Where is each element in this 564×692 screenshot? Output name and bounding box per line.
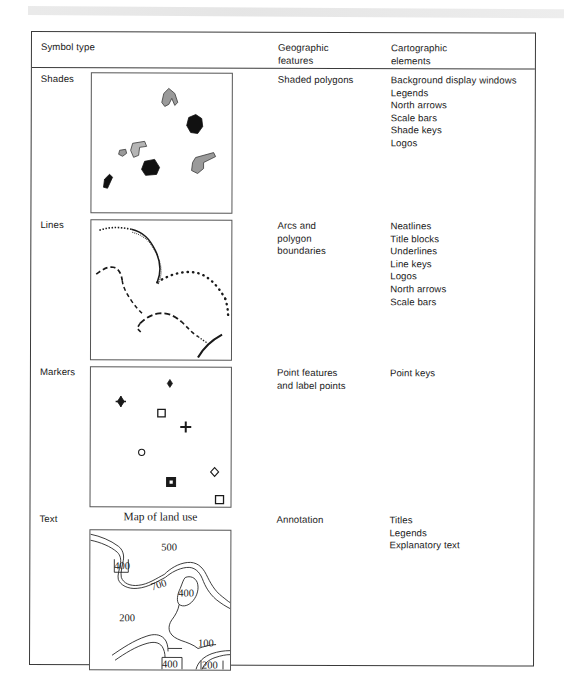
- markers-figure: [90, 366, 232, 507]
- map-title: Map of land use: [89, 510, 231, 522]
- row-geographic-shades: Shaded polygons: [278, 74, 354, 87]
- line-styles-svg: [91, 220, 231, 359]
- header-divider: [32, 67, 535, 70]
- contour-label-200-b: 200: [202, 660, 218, 670]
- row-label-shades: Shades: [41, 73, 74, 86]
- shades-figure: [90, 72, 232, 213]
- row-geographic-text: Annotation: [276, 514, 323, 527]
- header-cartographic-elements: Cartographic elements: [391, 42, 447, 67]
- row-geographic-lines: Arcs and polygon boundaries: [277, 220, 326, 258]
- contour-label-400-c: 400: [162, 658, 178, 669]
- symbol-type-table: Symbol type Geographic features Cartogra…: [29, 31, 536, 667]
- contour-label-200-a: 200: [119, 612, 135, 623]
- contour-map-svg: 500 400 700 400 200 100 400 200: [90, 530, 230, 669]
- row-cartographic-text: Titles Legends Explanatory text: [389, 514, 460, 552]
- contour-label-400-b: 400: [178, 587, 194, 598]
- shades-polygons-svg: [91, 73, 231, 212]
- row-label-lines: Lines: [40, 219, 63, 232]
- row-cartographic-shades: Background display windows Legends North…: [391, 74, 517, 150]
- point-markers-svg: [91, 367, 231, 506]
- row-geographic-markers: Point features and label points: [277, 367, 346, 392]
- text-map-figure: 500 400 700 400 200 100 400 200: [89, 529, 231, 670]
- contour-label-400-a: 400: [114, 560, 130, 571]
- row-cartographic-markers: Point keys: [390, 367, 435, 380]
- row-label-markers: Markers: [40, 366, 75, 379]
- contour-label-500: 500: [161, 541, 177, 552]
- contour-label-700: 700: [149, 577, 167, 592]
- header-geographic-features: Geographic features: [278, 42, 329, 67]
- row-cartographic-lines: Neatlines Title blocks Underlines Line k…: [390, 220, 446, 308]
- header-symbol-type: Symbol type: [41, 41, 95, 54]
- lines-figure: [90, 219, 232, 360]
- scan-artifact-band: [28, 6, 564, 18]
- row-label-text: Text: [39, 513, 57, 526]
- contour-label-100: 100: [198, 638, 214, 649]
